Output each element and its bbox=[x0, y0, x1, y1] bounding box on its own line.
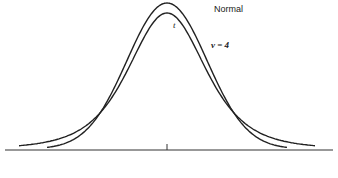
degrees-of-freedom-label: ν = 4 bbox=[211, 40, 229, 50]
normal-curve bbox=[47, 3, 287, 147]
chart-plot bbox=[0, 0, 338, 178]
t-curve bbox=[19, 13, 315, 146]
chart-figure: Normal t ν = 4 bbox=[0, 0, 338, 178]
t-label: t bbox=[173, 20, 176, 30]
normal-label: Normal bbox=[214, 4, 243, 14]
